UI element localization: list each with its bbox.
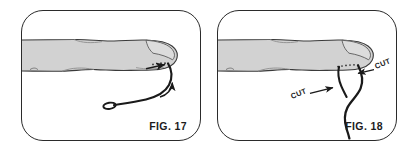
figure-panel-fig18: CUT CUT FIG. 18 [217, 10, 397, 141]
figure-panel-fig17: FIG. 17 [21, 10, 201, 141]
figure-caption-fig17: FIG. 17 [149, 120, 187, 132]
cut-annotation-left: CUT [289, 86, 333, 101]
cut-label-right: CUT [373, 56, 392, 71]
thread-strand-short [338, 67, 346, 97]
cut-label-left: CUT [289, 86, 308, 101]
figure-caption-fig18: FIG. 18 [345, 120, 383, 132]
arrow-right-icon [310, 88, 333, 94]
figure-sheet: FIG. 17 [0, 0, 412, 151]
finger-illustration [218, 39, 373, 71]
